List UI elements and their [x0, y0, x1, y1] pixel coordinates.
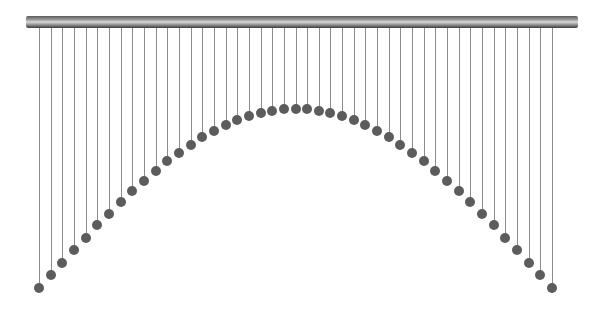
pendulum-bob — [419, 156, 429, 166]
pendulum-string — [400, 28, 401, 145]
pendulum-string — [330, 28, 331, 113]
pendulum-wave-scene — [0, 0, 606, 310]
pendulum-bob — [442, 176, 452, 186]
pendulum-string — [214, 28, 215, 131]
pendulum-string — [365, 28, 366, 125]
pendulum-string — [86, 28, 87, 238]
pendulum-bob — [267, 106, 277, 116]
pendulum-string — [459, 28, 460, 191]
pendulum-bob — [139, 176, 149, 186]
pendulum-string — [354, 28, 355, 120]
pendulum-string — [470, 28, 471, 202]
pendulum-string — [121, 28, 122, 202]
pendulum-bob — [256, 108, 266, 118]
pendulum-bob — [524, 258, 534, 268]
pendulum-bob — [407, 148, 417, 158]
support-bar — [26, 16, 578, 28]
pendulum-bob — [430, 166, 440, 176]
pendulum-string — [237, 28, 238, 120]
pendulum-string — [226, 28, 227, 125]
pendulum-string — [97, 28, 98, 225]
pendulum-string — [517, 28, 518, 250]
pendulum-string — [261, 28, 262, 113]
pendulum-bob — [174, 148, 184, 158]
pendulum-bob — [92, 220, 102, 230]
pendulum-string — [412, 28, 413, 153]
pendulum-bob — [162, 156, 172, 166]
pendulum-string — [552, 28, 553, 288]
pendulum-bob — [500, 233, 510, 243]
pendulum-string — [529, 28, 530, 263]
pendulum-string — [144, 28, 145, 181]
pendulum-string — [389, 28, 390, 137]
pendulum-bob — [232, 115, 242, 125]
pendulum-bob — [291, 104, 301, 114]
pendulum-bob — [46, 270, 56, 280]
pendulum-string — [191, 28, 192, 145]
pendulum-bob — [116, 197, 126, 207]
pendulum-string — [284, 28, 285, 109]
pendulum-bob — [372, 126, 382, 136]
pendulum-string — [447, 28, 448, 181]
pendulum-string — [505, 28, 506, 238]
pendulum-bob — [535, 270, 545, 280]
pendulum-bob — [279, 104, 289, 114]
pendulum-bob — [477, 209, 487, 219]
pendulum-string — [482, 28, 483, 214]
pendulum-string — [319, 28, 320, 111]
pendulum-bob — [34, 283, 44, 293]
pendulum-string — [307, 28, 308, 109]
pendulum-bob — [69, 245, 79, 255]
pendulum-bob — [57, 258, 67, 268]
pendulum-string — [296, 28, 297, 109]
pendulum-string — [156, 28, 157, 171]
pendulum-bob — [314, 106, 324, 116]
pendulum-string — [132, 28, 133, 191]
pendulum-string — [179, 28, 180, 153]
pendulum-bob — [454, 186, 464, 196]
pendulum-bob — [465, 197, 475, 207]
pendulum-string — [74, 28, 75, 250]
pendulum-string — [249, 28, 250, 116]
pendulum-bob — [325, 108, 335, 118]
pendulum-string — [202, 28, 203, 137]
pendulum-string — [39, 28, 40, 288]
pendulum-string — [62, 28, 63, 263]
pendulum-bob — [547, 283, 557, 293]
pendulum-string — [424, 28, 425, 161]
pendulum-string — [435, 28, 436, 171]
pendulum-string — [167, 28, 168, 161]
pendulum-bob — [197, 132, 207, 142]
pendulum-string — [540, 28, 541, 275]
pendulum-bob — [512, 245, 522, 255]
pendulum-bob — [302, 104, 312, 114]
pendulum-bob — [395, 140, 405, 150]
pendulum-bob — [127, 186, 137, 196]
pendulum-bob — [244, 111, 254, 121]
pendulum-bob — [221, 120, 231, 130]
pendulum-string — [51, 28, 52, 275]
pendulum-string — [109, 28, 110, 214]
pendulum-bob — [104, 209, 114, 219]
pendulum-string — [377, 28, 378, 131]
pendulum-bob — [151, 166, 161, 176]
pendulum-string — [342, 28, 343, 116]
pendulum-bob — [186, 140, 196, 150]
pendulum-string — [272, 28, 273, 111]
pendulum-bob — [209, 126, 219, 136]
pendulum-bob — [489, 220, 499, 230]
pendulum-bob — [81, 233, 91, 243]
pendulum-string — [494, 28, 495, 225]
pendulum-bob — [337, 111, 347, 121]
pendulum-bob — [360, 120, 370, 130]
pendulum-bob — [349, 115, 359, 125]
pendulum-bob — [384, 132, 394, 142]
